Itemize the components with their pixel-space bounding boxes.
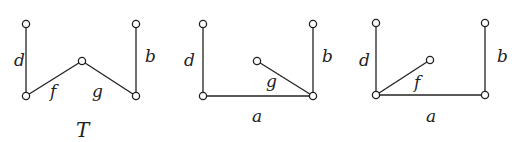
edge-label-a: a	[252, 106, 262, 126]
edge-label-g: g	[92, 81, 103, 101]
tree-3-node-1	[372, 91, 379, 98]
tree-2-node-0	[199, 20, 206, 27]
edge-label-f: f	[48, 81, 59, 101]
edge-label-b: b	[322, 46, 333, 66]
tree-T-node-2	[78, 57, 85, 64]
tree-2-node-2	[253, 57, 260, 64]
tree-T-edge-g	[82, 61, 136, 96]
tree-T-node-0	[22, 20, 29, 27]
diagram-canvas: dfgbdagbdfab T	[0, 0, 519, 142]
tree-2-node-4	[309, 92, 316, 99]
tree-2-node-1	[199, 92, 206, 99]
edge-label-d: d	[14, 50, 25, 70]
edge-label-f: f	[412, 72, 423, 92]
edge-label-b: b	[145, 46, 156, 66]
tree-T-node-4	[132, 92, 139, 99]
tree-3-edge-f	[376, 60, 430, 95]
tree-3-node-3	[481, 19, 488, 26]
tree-T-node-1	[22, 92, 29, 99]
edge-label-b: b	[497, 46, 508, 66]
tree-3-node-2	[426, 56, 433, 63]
edge-label-g: g	[266, 71, 277, 91]
tree-3-node-0	[372, 19, 379, 26]
tree-3-node-4	[481, 91, 488, 98]
edge-label-a: a	[426, 106, 436, 126]
tree-T-node-3	[132, 20, 139, 27]
labels-layer: dfgbdagbdfab	[14, 46, 508, 126]
tree-2-node-3	[309, 20, 316, 27]
edge-label-d: d	[359, 50, 370, 70]
edge-label-d: d	[184, 50, 195, 70]
caption-T: T	[76, 118, 91, 142]
